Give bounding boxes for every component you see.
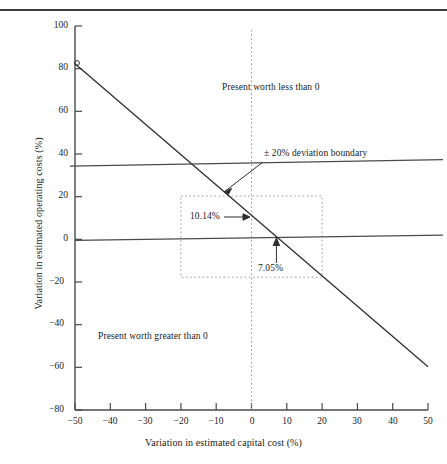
annotation-present-worth-greater: Present worth greater than 0: [98, 331, 208, 341]
x-tick-label: −40: [93, 416, 127, 426]
annotation-capital-cost-intercept: 7.05%: [258, 263, 283, 273]
annotation-present-worth-less: Present worth less than 0: [222, 82, 320, 92]
operating-cost-arrow: [224, 214, 250, 220]
y-tick-label: 100: [38, 20, 68, 30]
x-tick-label: −30: [128, 416, 162, 426]
x-tick-label: 40: [376, 416, 410, 426]
x-tick-label: −50: [58, 416, 92, 426]
annotation-deviation-boundary: ± 20% deviation boundary: [264, 148, 367, 158]
x-tick-label: 0: [235, 416, 269, 426]
deviation-boundary-arrow: [224, 162, 263, 195]
figure-page: 100 80 60 40 20 0 −20 −40 −60 −80 −50 −4…: [0, 0, 447, 464]
x-axis-title: Variation in estimated capital cost (%): [0, 437, 447, 448]
x-tick-label: 50: [411, 416, 445, 426]
y-tick-label: −60: [34, 361, 64, 371]
y-tick-label: 60: [38, 105, 68, 115]
chart-plot-area: 100 80 60 40 20 0 −20 −40 −60 −80 −50 −4…: [0, 0, 447, 464]
annotation-operating-cost-intercept: 10.14%: [190, 211, 220, 221]
y-tick-marks: [75, 26, 82, 410]
x-tick-label: 20: [305, 416, 339, 426]
capital-cost-arrow: [273, 238, 279, 263]
x-tick-label: −20: [164, 416, 198, 426]
break-even-shallow-line: [75, 235, 443, 240]
y-axis-title: Variation in estimated operating costs (…: [33, 124, 44, 324]
y-tick-label: 80: [38, 62, 68, 72]
deviation-boundary-line: [70, 160, 443, 167]
x-tick-label: 30: [340, 416, 374, 426]
x-tick-label: 10: [270, 416, 304, 426]
y-tick-label: −80: [34, 404, 64, 414]
x-tick-label: −10: [199, 416, 233, 426]
